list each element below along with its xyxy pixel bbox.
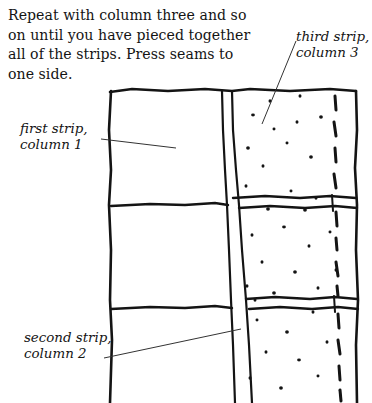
print-dot (297, 359, 301, 362)
print-dot (256, 319, 259, 322)
print-dot (266, 207, 270, 210)
print-dot (251, 233, 254, 236)
print-dot (308, 244, 311, 247)
print-dot (319, 115, 323, 118)
print-dot (285, 330, 289, 333)
print-dot (272, 291, 276, 294)
print-dot (312, 310, 315, 313)
stitching-guide-dashed-line (334, 96, 341, 401)
print-dot (317, 375, 320, 378)
lower-strip-seam-left (111, 306, 232, 309)
callout-label-third-strip: third strip, column 3 (296, 29, 369, 61)
leader-second-strip (104, 329, 241, 358)
print-dot (290, 190, 293, 193)
print-dot (265, 350, 268, 353)
leader-third-strip (262, 41, 296, 124)
print-dot (286, 142, 289, 145)
print-dot (246, 284, 249, 287)
print-dot (254, 298, 257, 301)
print-dot (293, 270, 297, 273)
upper-strip-seam-right-a (233, 196, 356, 198)
dotted-print-column-3 (245, 94, 338, 389)
upper-strip-seam-left (111, 203, 228, 206)
print-dot (309, 155, 313, 158)
print-dot (273, 128, 276, 131)
lower-strip-seam-right-b (249, 307, 358, 309)
print-dot (261, 260, 264, 263)
callout-label-second-strip: second strip, column 2 (24, 330, 112, 362)
print-dot (249, 376, 252, 379)
column-seam-right (232, 91, 252, 403)
print-dot (251, 114, 255, 117)
print-dot (279, 386, 283, 389)
print-dot (315, 196, 318, 199)
print-dot (317, 286, 320, 289)
callout-label-first-strip: first strip, column 1 (20, 121, 88, 153)
print-dot (329, 231, 332, 234)
lower-strip-seam-right-a (246, 297, 357, 299)
print-dot (246, 146, 250, 149)
print-dot (303, 208, 307, 211)
print-dot (326, 340, 329, 343)
upper-strip-seam-right-b (239, 206, 357, 208)
print-dot (245, 184, 248, 187)
leader-first-strip (101, 139, 176, 148)
print-dot (335, 268, 338, 271)
quilt-outline-right (355, 91, 358, 403)
print-dot (282, 226, 286, 229)
instruction-paragraph: Repeat with column three and so on until… (8, 6, 252, 84)
print-dot (299, 94, 302, 97)
print-dot (262, 164, 265, 167)
figure-page: Repeat with column three and so on until… (0, 0, 372, 403)
print-dot (296, 120, 299, 123)
